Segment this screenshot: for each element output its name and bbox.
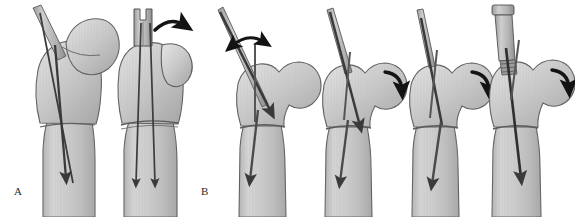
panel-b-figure-2 bbox=[323, 8, 407, 217]
panel-b-figure-3 bbox=[410, 9, 494, 217]
panel-a-figure-2 bbox=[118, 9, 192, 217]
shaft-texture bbox=[43, 122, 95, 217]
shaft-texture bbox=[412, 126, 459, 217]
shaft-texture bbox=[124, 122, 177, 217]
panel-a-figure-1 bbox=[33, 5, 119, 217]
reamer-collar bbox=[492, 5, 514, 15]
panel-label-b: B bbox=[201, 185, 209, 197]
panel-label-a: A bbox=[14, 185, 22, 197]
panel-b-figure-1 bbox=[218, 7, 321, 217]
femoral-head bbox=[161, 44, 192, 87]
surgical-illustration-figure: A B bbox=[0, 0, 575, 217]
illustration-canvas bbox=[0, 0, 575, 217]
shaft-texture bbox=[239, 125, 286, 217]
panel-b-figure-4 bbox=[490, 5, 575, 217]
reamer-barrel bbox=[495, 15, 515, 61]
rotation-arrow bbox=[155, 21, 184, 30]
shaft-texture bbox=[325, 126, 372, 217]
cannulated-threaded-reamer bbox=[492, 5, 517, 75]
